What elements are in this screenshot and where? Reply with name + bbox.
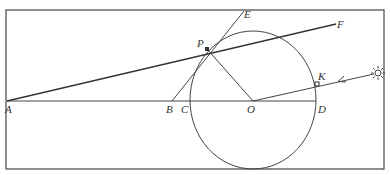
label-o: O (247, 104, 255, 115)
label-p: P (197, 38, 204, 49)
line-a-f (7, 24, 336, 101)
point-p-marker (205, 47, 209, 51)
label-c: C (181, 104, 188, 115)
line-p-o (207, 49, 253, 101)
geometry-diagram: A B C O D P E F K (0, 0, 390, 175)
frame-border (6, 10, 384, 169)
label-f: F (337, 19, 344, 30)
label-d: D (318, 104, 326, 115)
diagram-canvas (0, 0, 390, 175)
line-b-e (172, 11, 244, 101)
label-b: B (166, 104, 173, 115)
label-k: K (318, 71, 325, 82)
sun-icon (371, 66, 385, 80)
point-k-marker (315, 82, 319, 86)
label-a: A (5, 104, 12, 115)
ray-sun-o (253, 74, 374, 101)
label-e: E (244, 9, 251, 20)
